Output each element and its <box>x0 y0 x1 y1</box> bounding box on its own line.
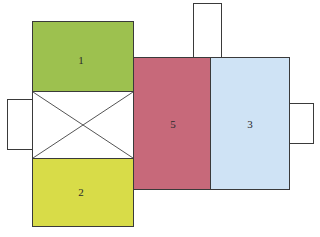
room-3-label: 3 <box>247 118 253 130</box>
room-5-label: 5 <box>170 118 176 130</box>
room-2-label: 2 <box>78 186 84 198</box>
